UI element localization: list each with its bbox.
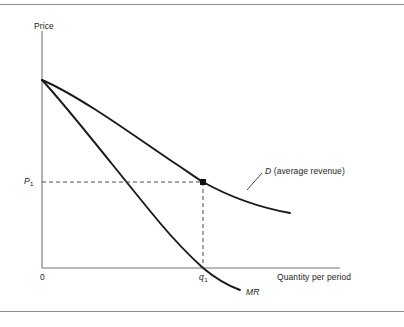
demand-label-leader-line [247,173,262,190]
equilibrium-point-marker [200,179,206,185]
demand-description: (average revenue) [271,166,345,176]
demand-curve [42,80,290,213]
price-level-subscript: 1 [30,180,34,187]
demand-curve-label: D (average revenue) [265,167,345,176]
price-level-symbol: P [24,176,30,186]
marginal-revenue-label: MR [246,288,259,297]
quantity-level-label: q1 [199,273,207,282]
figure-container: Price P1 0 q1 MR Quantity per period D (… [0,0,404,327]
origin-label: 0 [40,273,45,282]
price-level-label: P1 [24,177,33,186]
quantity-level-subscript: 1 [204,276,208,283]
y-axis-label: Price [34,22,54,31]
x-axis-label: Quantity per period [277,273,351,282]
